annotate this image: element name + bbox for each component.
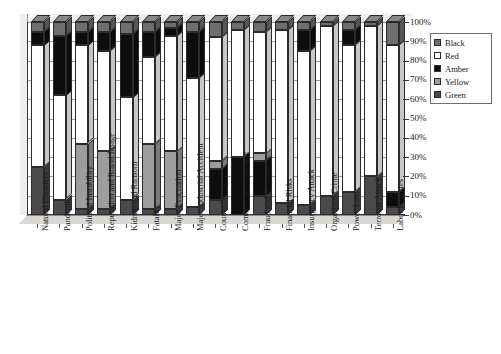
segment-black xyxy=(120,22,133,34)
y-tick-20 xyxy=(403,176,409,177)
x-tick xyxy=(126,224,127,228)
x-tick xyxy=(259,224,260,228)
legend-swatch-green-icon xyxy=(434,91,441,98)
x-tick xyxy=(215,224,216,228)
segment-red xyxy=(53,95,66,199)
segment-red xyxy=(75,45,88,143)
x-tick xyxy=(148,224,149,228)
legend-item-green[interactable]: Green xyxy=(434,88,488,101)
segment-black xyxy=(53,22,66,36)
bar-fatality[interactable] xyxy=(142,22,155,215)
x-axis-label-reputation-and-brand-image: Reputation and Brand Image xyxy=(107,133,116,231)
x-axis-label-pandemic: Pandemic xyxy=(63,197,72,231)
segment-amber xyxy=(342,30,355,45)
segment-amber xyxy=(297,30,310,51)
y-tick-label: 30% xyxy=(410,153,427,162)
legend-label: Yellow xyxy=(445,77,469,87)
y-tick-label: 80% xyxy=(410,56,427,65)
stacked-bar-chart: 0%10%20%30%40%50%60%70%80%90%100% Natura… xyxy=(0,0,501,354)
segment-amber xyxy=(53,36,66,96)
x-axis-label-financial-risks: Financial Risks xyxy=(285,178,294,231)
x-axis-label-organized-crime: Organized Crime xyxy=(330,172,339,231)
y-tick-label: 100% xyxy=(410,18,431,27)
y-tick-60 xyxy=(403,99,409,100)
segment-amber xyxy=(75,32,88,46)
y-tick-label: 60% xyxy=(410,95,427,104)
segment-red xyxy=(209,37,222,161)
segment-black xyxy=(386,22,399,45)
chart-legend: BlackRedAmberYellowGreen xyxy=(430,33,492,104)
legend-item-red[interactable]: Red xyxy=(434,49,488,62)
x-axis-label-fraud-and-corruption: Fraud and Corruption xyxy=(263,157,272,231)
x-tick xyxy=(371,224,372,228)
legend-label: Amber xyxy=(445,64,469,74)
bar-power-loss[interactable] xyxy=(342,22,355,215)
segment-side-face xyxy=(399,40,405,192)
segment-side-face xyxy=(155,51,161,143)
legend-item-yellow[interactable]: Yellow xyxy=(434,75,488,88)
y-tick-label: 40% xyxy=(410,133,427,142)
segment-red xyxy=(164,36,177,152)
segment-side-face xyxy=(199,26,205,78)
y-tick-label: 50% xyxy=(410,114,427,123)
y-tick-80 xyxy=(403,61,409,62)
legend-item-black[interactable]: Black xyxy=(434,36,488,49)
segment-amber xyxy=(164,28,177,36)
segment-black xyxy=(231,22,244,30)
x-tick xyxy=(304,224,305,228)
segment-black xyxy=(209,22,222,37)
segment-red xyxy=(142,57,155,144)
segment-amber xyxy=(97,32,110,51)
segment-black xyxy=(275,22,288,30)
x-axis-label-natural-disasters: Natural Disasters xyxy=(41,172,50,231)
segment-side-face xyxy=(88,40,94,144)
segment-side-face xyxy=(288,24,294,203)
legend-label: Black xyxy=(445,38,465,48)
chart-3d-floor xyxy=(19,215,405,224)
segment-amber xyxy=(142,32,155,57)
legend-label: Green xyxy=(445,90,466,100)
segment-red xyxy=(31,45,44,167)
segment-yellow xyxy=(142,144,155,210)
x-tick xyxy=(104,224,105,228)
bar-stack xyxy=(342,22,355,215)
segment-side-face xyxy=(66,90,72,200)
x-tick xyxy=(193,224,194,228)
y-tick-label: 70% xyxy=(410,75,427,84)
segment-black xyxy=(75,22,88,32)
segment-amber xyxy=(31,32,44,46)
segment-red xyxy=(386,45,399,192)
segment-red xyxy=(342,45,355,192)
x-axis-label-power-loss: Power Loss xyxy=(352,191,361,231)
segment-side-face xyxy=(266,26,272,153)
x-axis-label-fatality: Fatality xyxy=(152,205,161,231)
x-tick xyxy=(237,224,238,228)
x-axis-label-insurgency-attack: Insurgency Attack xyxy=(307,169,316,231)
segment-side-face xyxy=(377,20,383,176)
x-tick xyxy=(282,224,283,228)
segment-red xyxy=(364,26,377,177)
x-axis-label-labor-disputes: Labor Disputes xyxy=(396,179,405,231)
x-tick xyxy=(326,224,327,228)
segment-side-face xyxy=(133,28,139,97)
y-tick-90 xyxy=(403,41,409,42)
segment-black xyxy=(253,22,266,32)
segment-side-face xyxy=(155,138,161,209)
x-axis-label-commercial-espionage: Commercial Espionage xyxy=(241,151,250,231)
legend-swatch-black-icon xyxy=(434,39,441,46)
bar-pandemic[interactable] xyxy=(53,22,66,215)
legend-item-amber[interactable]: Amber xyxy=(434,62,488,75)
y-tick-70 xyxy=(403,80,409,81)
x-axis-label-major-evacuation: Major Evacuation xyxy=(174,170,183,231)
bar-stack xyxy=(142,22,155,215)
x-tick xyxy=(82,224,83,228)
x-tick xyxy=(59,224,60,228)
segment-black xyxy=(164,22,177,28)
segment-side-face xyxy=(333,20,339,195)
x-tick xyxy=(37,224,38,228)
segment-black xyxy=(186,22,199,32)
bar-stack xyxy=(53,22,66,215)
segment-side-face xyxy=(244,24,250,157)
segment-black xyxy=(142,22,155,32)
segment-side-face xyxy=(222,32,228,161)
